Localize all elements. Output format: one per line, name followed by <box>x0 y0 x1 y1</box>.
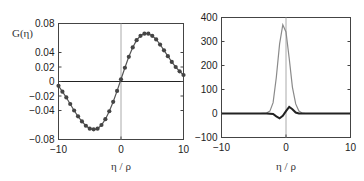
y-tick-label: 0.04 <box>35 47 55 58</box>
left-x-axis-label: η / ρ <box>111 160 131 172</box>
data-point-marker <box>64 95 68 99</box>
y-tick-label: 0 <box>212 108 218 119</box>
data-point-marker <box>142 32 146 36</box>
data-point-marker <box>107 109 111 113</box>
right-y-ticks: 4003002001000−100 <box>195 12 351 143</box>
data-point-marker <box>119 77 123 81</box>
data-point-marker <box>56 84 60 88</box>
data-point-marker <box>154 37 158 41</box>
data-point-marker <box>72 108 76 112</box>
data-point-marker <box>84 124 88 128</box>
y-tick-label: 0.08 <box>35 18 55 29</box>
y-tick-label: 200 <box>201 60 218 71</box>
right-x-axis-label: η / ρ <box>276 160 296 172</box>
y-tick-label: 0 <box>49 76 55 87</box>
data-point-marker <box>150 34 154 38</box>
data-point-marker <box>177 69 181 73</box>
left-chart-panel: 0.080.040.020−0.02−0.04−0.08 −10010 G(η)… <box>12 18 189 172</box>
data-point-marker <box>88 127 92 131</box>
data-point-marker <box>181 73 185 77</box>
data-point-marker <box>95 127 99 131</box>
data-point-marker <box>127 55 131 59</box>
data-point-marker <box>80 119 84 123</box>
x-tick-label: −10 <box>213 142 230 153</box>
data-point-marker <box>170 60 174 64</box>
data-point-marker <box>68 102 72 106</box>
y-tick-label: 400 <box>201 12 218 23</box>
y-tick-label: −0.04 <box>29 105 55 116</box>
x-tick-label: 0 <box>118 144 124 155</box>
data-point-marker <box>60 90 64 94</box>
data-point-marker <box>123 66 127 70</box>
figure: 0.080.040.020−0.02−0.04−0.08 −10010 G(η)… <box>0 0 364 181</box>
data-point-marker <box>146 32 150 36</box>
right-chart-panel: 4003002001000−100 −10010 η / ρ <box>195 12 357 172</box>
y-tick-label: 300 <box>201 36 218 47</box>
data-point-marker <box>138 34 142 38</box>
data-point-marker <box>115 89 119 93</box>
data-point-marker <box>76 114 80 118</box>
data-point-marker <box>111 100 115 104</box>
data-point-marker <box>99 123 103 127</box>
data-point-marker <box>162 48 166 52</box>
x-tick-label: −10 <box>50 144 67 155</box>
y-tick-label: −0.02 <box>29 91 55 102</box>
data-point-marker <box>174 65 178 69</box>
data-point-marker <box>135 38 139 42</box>
data-point-marker <box>158 42 162 46</box>
y-tick-label: 0.02 <box>35 62 55 73</box>
x-tick-label: 0 <box>283 142 289 153</box>
data-point-marker <box>103 117 107 121</box>
left-y-axis-label: G(η) <box>12 27 33 40</box>
x-tick-label: 10 <box>345 142 357 153</box>
x-tick-label: 10 <box>178 144 190 155</box>
y-tick-label: 100 <box>201 84 218 95</box>
data-point-marker <box>92 127 96 131</box>
data-point-marker <box>131 45 135 49</box>
data-point-marker <box>166 54 170 58</box>
